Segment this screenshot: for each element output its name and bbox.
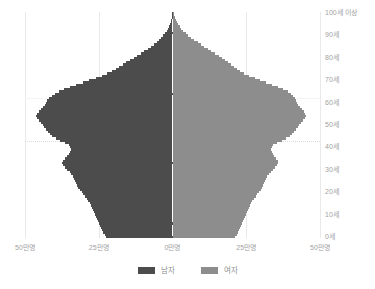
pyramid-bar bbox=[52, 95, 173, 97]
pyramid-bar bbox=[96, 216, 172, 218]
y-axis-tick-label: 10세 bbox=[325, 211, 339, 219]
pyramid-bar bbox=[65, 166, 172, 168]
vertical-gridline bbox=[320, 12, 321, 238]
pyramid-bar bbox=[71, 173, 172, 175]
pyramid-bar bbox=[173, 164, 278, 166]
y-axis-tick-label: 50세 bbox=[325, 121, 339, 129]
pyramid-bar bbox=[173, 79, 261, 81]
pyramid-bar bbox=[76, 84, 172, 86]
pyramid-bar bbox=[95, 213, 172, 215]
pyramid-bar bbox=[173, 182, 265, 184]
pyramid-bar bbox=[65, 157, 173, 159]
pyramid-bar bbox=[173, 204, 251, 206]
legend-item-male[interactable]: 남자 bbox=[138, 266, 175, 275]
y-axis-tick-label: 90세 bbox=[325, 31, 339, 39]
x-axis-tick-label: 0만명 bbox=[165, 243, 181, 252]
pyramid-bar bbox=[50, 133, 173, 135]
y-axis-tick-label: 30세 bbox=[325, 166, 339, 174]
pyramid-bar bbox=[154, 43, 172, 45]
pyramid-bar bbox=[173, 75, 250, 77]
pyramid-bar bbox=[173, 25, 180, 27]
pyramid-bar bbox=[173, 227, 241, 229]
pyramid-bar bbox=[43, 124, 173, 126]
y-axis-tick-label: 40세 bbox=[325, 143, 339, 151]
pyramid-bar bbox=[173, 23, 179, 25]
pyramid-bar bbox=[64, 88, 173, 90]
pyramid-bar bbox=[173, 151, 272, 153]
pyramid-bar bbox=[173, 46, 205, 48]
pyramid-bar bbox=[173, 32, 186, 34]
pyramid-bar bbox=[89, 79, 172, 81]
pyramid-bar bbox=[173, 198, 254, 200]
pyramid-bar bbox=[119, 66, 172, 68]
pyramid-bar bbox=[44, 126, 172, 128]
pyramid-bar bbox=[59, 90, 173, 92]
pyramid-bar bbox=[47, 99, 172, 101]
pyramid-bar bbox=[71, 148, 173, 150]
pyramid-bar bbox=[173, 175, 268, 177]
pyramid-bar bbox=[173, 108, 302, 110]
pyramid-bar bbox=[173, 153, 273, 155]
pyramid-bar bbox=[173, 157, 276, 159]
pyramid-bar bbox=[173, 178, 267, 180]
pyramid-bar bbox=[173, 193, 258, 195]
pyramid-bar bbox=[159, 39, 172, 41]
pyramid-bar bbox=[96, 77, 173, 79]
pyramid-bar bbox=[173, 144, 274, 146]
pyramid-bar bbox=[41, 122, 173, 124]
pyramid-bar bbox=[173, 110, 304, 112]
pyramid-bar bbox=[173, 171, 271, 173]
pyramid-bar bbox=[173, 173, 269, 175]
pyramid-bar bbox=[103, 231, 172, 233]
pyramid-bar bbox=[45, 104, 172, 106]
pyramid-bar bbox=[173, 93, 292, 95]
pyramid-bar bbox=[173, 115, 306, 117]
pyramid-bar bbox=[173, 52, 215, 54]
legend-item-female[interactable]: 여자 bbox=[201, 266, 238, 275]
pyramid-bar bbox=[37, 113, 173, 115]
pyramid-bar bbox=[92, 207, 172, 209]
pyramid-bar bbox=[173, 142, 277, 144]
pyramid-bar bbox=[173, 37, 192, 39]
pyramid-bar bbox=[173, 72, 245, 74]
pyramid-bar bbox=[173, 104, 299, 106]
pyramid-bar bbox=[173, 184, 264, 186]
pyramid-bar bbox=[173, 119, 303, 121]
pyramid-bar bbox=[173, 97, 296, 99]
x-axis-tick-label: 25만명 bbox=[89, 243, 109, 252]
pyramid-bar bbox=[173, 131, 295, 133]
pyramid-bar bbox=[173, 162, 279, 164]
pyramid-bar bbox=[70, 86, 173, 88]
pyramid-bar bbox=[173, 128, 296, 130]
pyramid-bar bbox=[55, 93, 173, 95]
pyramid-bar bbox=[77, 184, 172, 186]
pyramid-bar bbox=[173, 117, 305, 119]
pyramid-bar bbox=[173, 43, 201, 45]
pyramid-bar bbox=[173, 86, 279, 88]
pyramid-bar bbox=[173, 220, 244, 222]
pyramid-bar bbox=[173, 21, 177, 23]
y-axis-tick-label: 20세 bbox=[325, 188, 339, 196]
pyramid-bar bbox=[75, 180, 172, 182]
pyramid-bar bbox=[60, 140, 172, 142]
y-axis-tick-label: 100세 이상 bbox=[325, 9, 357, 17]
plot-area bbox=[25, 12, 320, 238]
pyramid-bar bbox=[173, 195, 256, 197]
pyramid-bar bbox=[137, 55, 172, 57]
pyramid-bar bbox=[173, 231, 238, 233]
pyramid-bar bbox=[173, 16, 175, 18]
pyramid-bar bbox=[90, 202, 173, 204]
pyramid-bar bbox=[173, 180, 266, 182]
pyramid-bar bbox=[173, 189, 261, 191]
pyramid-bar bbox=[82, 191, 173, 193]
pyramid-bar bbox=[148, 48, 173, 50]
bars-layer bbox=[25, 12, 320, 238]
pyramid-bar bbox=[173, 50, 212, 52]
pyramid-bar bbox=[91, 204, 172, 206]
pyramid-bar bbox=[63, 164, 172, 166]
pyramid-bar bbox=[73, 175, 173, 177]
pyramid-bar bbox=[134, 57, 173, 59]
pyramid-bar bbox=[173, 66, 234, 68]
pyramid-bar bbox=[161, 37, 172, 39]
pyramid-bar bbox=[100, 225, 173, 227]
